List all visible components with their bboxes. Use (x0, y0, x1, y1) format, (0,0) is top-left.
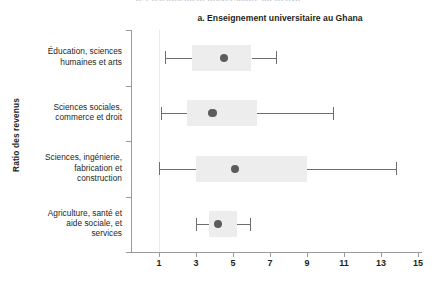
x-axis-tick-label: 13 (366, 258, 396, 268)
box-iqr (187, 100, 257, 126)
category-label: Sciences sociales,commerce et droit (0, 102, 126, 123)
category-label-line: Agriculture, santé et (0, 208, 122, 218)
whisker-high-line (237, 224, 250, 225)
whisker-low-cap (159, 162, 160, 175)
whisker-high-line (252, 58, 276, 59)
category-label-line: aide sociale, et (0, 218, 122, 228)
whisker-low-cap (165, 51, 166, 64)
category-label-line: commerce et droit (0, 112, 122, 122)
boxplot-figure: b. Enseignement universitaire au Kenya a… (0, 0, 432, 285)
x-axis-tick-label: 3 (181, 258, 211, 268)
median-marker (231, 165, 239, 173)
whisker-low-line (161, 113, 187, 114)
whisker-high-cap (250, 218, 251, 231)
category-label: Agriculture, santé etaide sociale, etser… (0, 208, 126, 239)
category-label: Éducation, scienceshumaines et arts (0, 46, 126, 67)
category-label: Sciences, ingénierie,fabrication etconst… (0, 152, 126, 183)
x-axis-tick-label: 9 (292, 258, 322, 268)
category-label-line: fabrication et (0, 163, 122, 173)
category-label-line: construction (0, 173, 122, 183)
x-axis-tick-label: 15 (403, 258, 432, 268)
whisker-low-line (159, 169, 196, 170)
reference-line-value-1 (159, 30, 160, 252)
whisker-low-line (196, 224, 209, 225)
whisker-low-line (165, 58, 193, 59)
whisker-low-cap (161, 107, 162, 120)
category-label-line: Sciences, ingénierie, (0, 152, 122, 162)
category-label-line: humaines et arts (0, 57, 122, 67)
whisker-high-cap (276, 51, 277, 64)
box-iqr (196, 156, 307, 182)
category-label-line: Éducation, sciences (0, 46, 122, 56)
adjacent-panel-bleed-text: b. Enseignement universitaire au Kenya (28, 0, 408, 1)
whisker-high-line (307, 169, 396, 170)
x-axis-tick-label: 11 (329, 258, 359, 268)
panel-title: a. Enseignement universitaire au Ghana (131, 13, 429, 23)
whisker-high-line (257, 113, 333, 114)
category-label-line: services (0, 228, 122, 238)
y-axis-spine (131, 30, 132, 252)
whisker-high-cap (396, 162, 397, 175)
median-marker (220, 54, 228, 62)
whisker-low-cap (196, 218, 197, 231)
whisker-high-cap (333, 107, 334, 120)
x-axis-tick-label: 7 (255, 258, 285, 268)
category-label-line: Sciences sociales, (0, 102, 122, 112)
x-axis-tick-label: 5 (218, 258, 248, 268)
x-axis-spine (131, 252, 422, 253)
x-axis-tick-label: 1 (144, 258, 174, 268)
